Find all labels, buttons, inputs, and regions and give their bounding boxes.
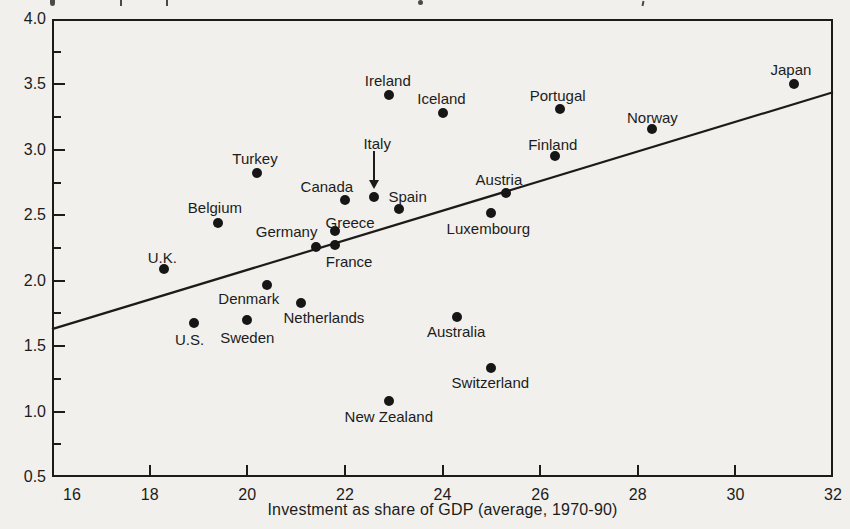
- chart-layer: 1618202224262830320.51.01.52.02.53.03.54…: [0, 0, 850, 529]
- data-point-label: Sweden: [220, 328, 274, 345]
- y-tick-label: 3.0: [4, 140, 46, 160]
- data-point-label: U.K.: [148, 248, 177, 265]
- data-point-dot: [486, 208, 496, 218]
- data-point-label: Luxembourg: [447, 219, 530, 236]
- data-point-dot: [340, 195, 350, 205]
- data-point-label: Iceland: [417, 90, 465, 107]
- data-point-label: U.S.: [175, 330, 204, 347]
- data-point-label: Canada: [301, 177, 354, 194]
- data-point-dot: [262, 280, 272, 290]
- data-point-label: Greece: [326, 213, 375, 230]
- data-point-dot: [189, 318, 199, 328]
- data-point-label: Ireland: [365, 71, 411, 88]
- y-tick-label: 3.5: [4, 74, 46, 94]
- data-point-dot: [438, 108, 448, 118]
- data-point-label: Turkey: [232, 150, 277, 167]
- data-point-label: Norway: [627, 108, 678, 125]
- data-point-label: Switzerland: [452, 374, 530, 391]
- data-point-label: Belgium: [188, 199, 242, 216]
- x-axis-title: Investment as share of GDP (average, 197…: [52, 501, 833, 519]
- y-tick-label: 1.5: [4, 336, 46, 356]
- data-point-label: Denmark: [218, 289, 279, 306]
- scatter-figure: 1618202224262830320.51.01.52.02.53.03.54…: [0, 0, 850, 529]
- data-point-label: France: [326, 253, 373, 270]
- data-point-dot: [384, 90, 394, 100]
- data-point-dot: [394, 204, 404, 214]
- data-point-label: Italy: [363, 134, 391, 151]
- data-point-label: Austria: [476, 171, 523, 188]
- data-point-label: Netherlands: [283, 308, 364, 325]
- data-point-dot: [311, 242, 321, 252]
- data-point-dot: [555, 104, 565, 114]
- data-point-label: New Zealand: [345, 408, 433, 425]
- data-point-label: Finland: [528, 136, 577, 153]
- y-tick-label: 4.0: [4, 9, 46, 29]
- y-tick-label: 2.0: [4, 271, 46, 291]
- data-point-label: Germany: [256, 222, 318, 239]
- y-tick-label: 2.5: [4, 205, 46, 225]
- data-point-dot: [296, 298, 306, 308]
- data-point-dot: [501, 188, 511, 198]
- data-point-label: Australia: [427, 323, 485, 340]
- data-point-dot: [384, 396, 394, 406]
- data-point-label: Portugal: [530, 87, 586, 104]
- data-point-label: Spain: [388, 187, 426, 204]
- label-arrow-shaft: [373, 151, 375, 180]
- label-arrow-head: [369, 180, 379, 189]
- y-tick-label: 1.0: [4, 402, 46, 422]
- data-point-label: Japan: [771, 61, 812, 78]
- y-tick-label: 0.5: [4, 467, 46, 487]
